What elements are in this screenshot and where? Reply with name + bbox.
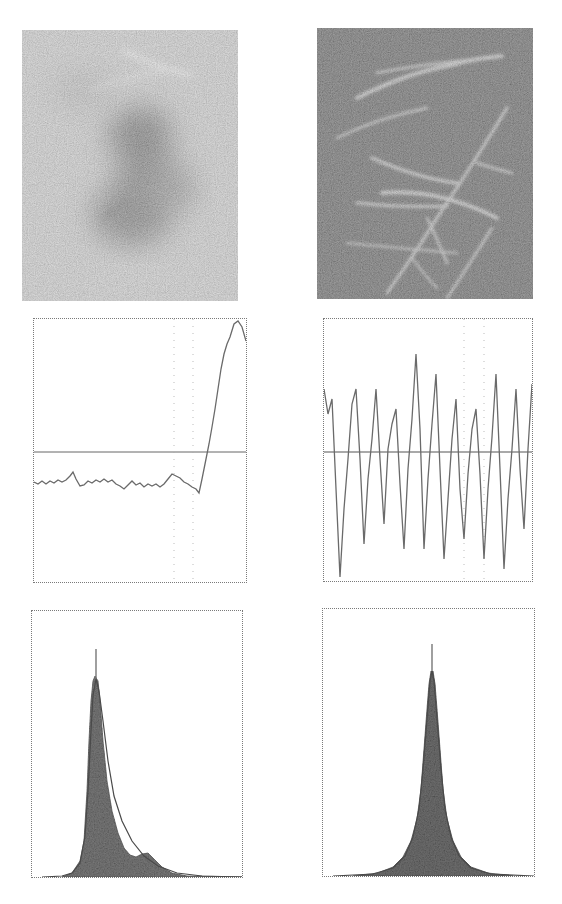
texture-image-a-graphic bbox=[22, 30, 238, 301]
histogram-area bbox=[353, 671, 513, 876]
texture-image-b-graphic bbox=[317, 28, 533, 299]
signal-plot-c-graphic bbox=[34, 319, 246, 582]
histogram-plot-f bbox=[322, 608, 535, 877]
signal-trace bbox=[34, 321, 246, 493]
texture-image-a bbox=[22, 30, 238, 301]
histogram-plot-e-graphic bbox=[32, 611, 242, 877]
histogram-plot-e bbox=[31, 610, 243, 878]
fit-curve bbox=[42, 679, 242, 877]
histogram-plot-f-graphic bbox=[323, 609, 534, 876]
signal-plot-d-graphic bbox=[324, 319, 532, 581]
signal-trace bbox=[324, 354, 532, 577]
texture-image-b bbox=[317, 28, 533, 299]
signal-plot-d bbox=[323, 318, 533, 582]
signal-plot-c bbox=[33, 318, 247, 583]
